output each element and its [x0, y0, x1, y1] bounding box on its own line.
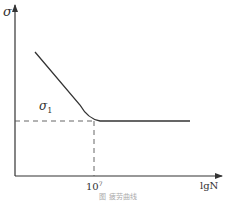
x-tick-base: 10 [86, 181, 99, 192]
fatigue-curve-figure: σ σ1 107 lgN 图 疲劳曲线 [0, 0, 236, 204]
y-axis-label: σ [3, 5, 12, 18]
x-axis-label: lgN [200, 181, 218, 191]
x-tick-label: 107 [86, 181, 103, 192]
figure-caption: 图 疲劳曲线 [0, 194, 236, 201]
x-tick-exponent: 7 [99, 180, 103, 187]
diagram-canvas [0, 0, 236, 204]
fatigue-limit-subscript: 1 [47, 106, 52, 115]
fatigue-limit-label: σ1 [39, 100, 52, 115]
fatigue-limit-symbol: σ [39, 99, 47, 113]
fatigue-curve [35, 52, 190, 121]
